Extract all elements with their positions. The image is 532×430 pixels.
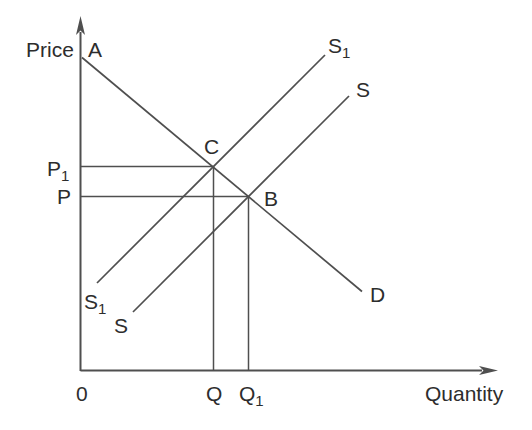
- point-c-label: C: [204, 135, 219, 158]
- supply-s-curve: [133, 96, 349, 312]
- supply-s1-top-label: S1: [328, 34, 350, 61]
- point-a-label: A: [88, 38, 102, 61]
- point-b-label: B: [264, 187, 278, 210]
- price-p1-label: P1: [47, 157, 69, 184]
- supply-s-top-label: S: [356, 78, 370, 101]
- supply-s1-curve: [97, 55, 325, 283]
- supply-s1-bottom-label: S1: [84, 290, 106, 317]
- quantity-q1-label: Q1: [239, 382, 264, 409]
- supply-s-bottom-label: S: [114, 314, 128, 337]
- y-axis-label: Price: [26, 38, 74, 61]
- x-axis-label: Quantity: [425, 382, 504, 405]
- price-p-label: P: [57, 185, 71, 208]
- diagram-canvas: Price Quantity 0 A D S1 S S1 S C B P1 P …: [0, 0, 532, 430]
- origin-label: 0: [76, 382, 88, 405]
- demand-d-label: D: [370, 283, 385, 306]
- quantity-q-label: Q: [206, 382, 222, 405]
- supply-demand-diagram: Price Quantity 0 A D S1 S S1 S C B P1 P …: [0, 0, 532, 430]
